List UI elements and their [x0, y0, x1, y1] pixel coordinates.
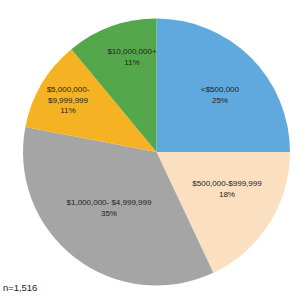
- pie-slice-group: [23, 18, 290, 285]
- sample-size-note: n=1,516: [3, 282, 37, 293]
- pie-chart-figure: <$500,000 25% $500,000-$999,999 18% $1,0…: [0, 0, 306, 308]
- pie-chart-svg: [0, 0, 306, 308]
- pie-slice: [157, 19, 291, 153]
